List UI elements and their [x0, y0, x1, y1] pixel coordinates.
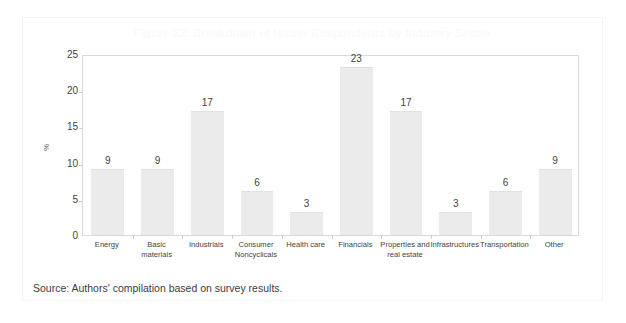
- y-axis-tick-mark: [79, 128, 83, 129]
- bar: [340, 67, 373, 235]
- x-axis-category-label: Transportation: [480, 240, 530, 250]
- y-axis-tick-label: 25: [48, 50, 78, 60]
- bar-value-label: 23: [332, 54, 382, 64]
- y-axis-tick-label: 20: [48, 86, 78, 96]
- bar-value-label: 6: [232, 178, 282, 188]
- x-axis-tick-mark: [481, 235, 482, 239]
- x-axis-tick-mark: [232, 235, 233, 239]
- y-axis-tick-label: 5: [48, 195, 78, 205]
- x-axis-category-label: Energy: [82, 240, 132, 250]
- bar-slot: 9: [83, 56, 133, 235]
- bar-value-label: 9: [530, 156, 580, 166]
- bar-slot: 6: [232, 56, 282, 235]
- bar-slot: 23: [332, 56, 382, 235]
- x-axis-tick-mark: [381, 235, 382, 239]
- bar-slot: 6: [481, 56, 531, 235]
- plot-area: 9917632317369: [82, 55, 579, 236]
- bar-value-label: 9: [133, 156, 183, 166]
- bar: [390, 111, 423, 235]
- bar-value-label: 6: [481, 178, 531, 188]
- x-axis-category-label: Other: [529, 240, 579, 250]
- x-axis-category-label: Consumer Noncyclicals: [231, 240, 281, 261]
- x-axis-category-label: Properties and real estate: [380, 240, 430, 261]
- x-axis-tick-mark: [133, 235, 134, 239]
- bar: [241, 191, 274, 235]
- x-axis-tick-mark: [332, 235, 333, 239]
- bar: [141, 169, 174, 235]
- bar-value-label: 9: [83, 156, 133, 166]
- x-axis-category-label: Industrials: [181, 240, 231, 250]
- bar: [290, 212, 323, 235]
- x-axis-tick-mark: [282, 235, 283, 239]
- bar-value-label: 17: [381, 98, 431, 108]
- figure-title: Figure 22: Breakdown of Issuer Responden…: [22, 27, 603, 39]
- y-axis-tick-mark: [79, 201, 83, 202]
- y-axis-tick-mark: [79, 92, 83, 93]
- y-axis-tick-label: 0: [48, 231, 78, 241]
- figure-container: Figure 22: Breakdown of Issuer Responden…: [0, 0, 626, 323]
- bar-slot: 9: [530, 56, 580, 235]
- y-axis-tick-mark: [79, 165, 83, 166]
- bar-slot: 3: [431, 56, 481, 235]
- y-axis-tick-labels: 0510152025: [48, 55, 78, 236]
- bar-chart: % 0510152025 9917632317369 EnergyBasic m…: [40, 55, 585, 250]
- bar-slot: 17: [182, 56, 232, 235]
- x-axis-category-label: Basic materials: [132, 240, 182, 261]
- bar: [439, 212, 472, 235]
- bar-slot: 9: [133, 56, 183, 235]
- bar: [489, 191, 522, 235]
- x-axis-category-label: Infrastructures: [430, 240, 480, 250]
- bar-value-label: 3: [282, 199, 332, 209]
- bar: [91, 169, 124, 235]
- x-axis-category-label: Health care: [281, 240, 331, 250]
- x-axis-tick-mark: [431, 235, 432, 239]
- bar-slot: 3: [282, 56, 332, 235]
- bar: [539, 169, 572, 235]
- x-axis-tick-mark: [530, 235, 531, 239]
- bar-slot: 17: [381, 56, 431, 235]
- y-axis-tick-label: 15: [48, 122, 78, 132]
- x-axis-category-label: Financials: [331, 240, 381, 250]
- bar-value-label: 3: [431, 199, 481, 209]
- bars-layer: 9917632317369: [83, 56, 578, 235]
- bar: [191, 111, 224, 235]
- source-note: Source: Authors' compilation based on su…: [33, 282, 282, 294]
- bar-value-label: 17: [182, 98, 232, 108]
- x-axis-tick-mark: [182, 235, 183, 239]
- y-axis-tick-label: 10: [48, 159, 78, 169]
